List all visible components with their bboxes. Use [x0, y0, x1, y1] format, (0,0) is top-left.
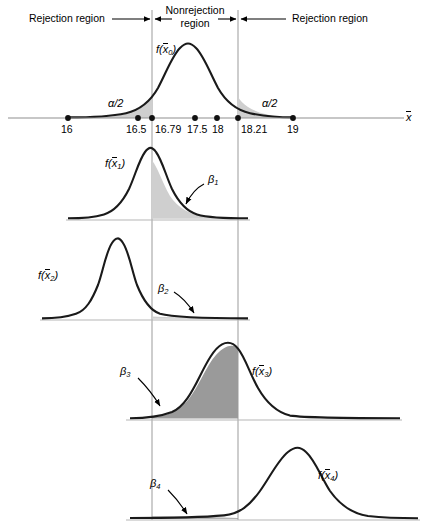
- fn2-open: f(: [38, 269, 45, 281]
- axis-tick-16-79: 16.79: [155, 124, 181, 135]
- curve-label-f-xbar3: f(x3): [252, 366, 272, 378]
- curve-null: [68, 44, 293, 118]
- rejection-region-left-label: Rejection region: [29, 13, 105, 24]
- panel-beta3: [126, 343, 402, 420]
- curve-label-f-xbar1: f(x1): [105, 158, 125, 170]
- beta3-label: β3: [120, 366, 130, 378]
- axis-tick-17-5: 17.5: [187, 124, 207, 135]
- beta2-pointer: [174, 292, 194, 313]
- curve-label-f-xbar4: f(x4): [318, 470, 338, 482]
- axis-tick-16-5: 16.5: [126, 124, 146, 135]
- xbar2-glyph: x: [45, 270, 51, 281]
- xbar-axis-glyph: x: [406, 112, 412, 123]
- curve-label-f-xbar2: f(x2): [38, 270, 58, 282]
- beta3-subscript: 3: [126, 370, 130, 379]
- panel-beta2: [40, 238, 250, 320]
- curve-label-f-xbar0: f(x0): [156, 44, 176, 56]
- axis-label-xbar: x: [406, 112, 412, 123]
- critical-guide-lines: [152, 10, 238, 520]
- axis-tick-19: 19: [287, 124, 299, 135]
- statistics-diagram: [0, 0, 424, 528]
- fn4-close: ): [334, 469, 338, 481]
- figure-canvas: Rejection region Nonrejection region Rej…: [0, 0, 424, 528]
- x-axis: [8, 115, 404, 121]
- axis-tick-18: 18: [212, 124, 224, 135]
- fn1-close: ): [121, 157, 125, 169]
- beta3-shade: [152, 346, 238, 419]
- xbar3-glyph: x: [259, 366, 265, 377]
- fn2-close: ): [54, 269, 58, 281]
- alpha-half-left-label: α/2: [108, 98, 123, 109]
- curve-beta3: [130, 343, 400, 419]
- beta1-label: β1: [208, 174, 218, 186]
- beta1-pointer: [186, 184, 204, 204]
- beta2-label: β2: [158, 283, 168, 295]
- curve-beta4: [130, 448, 418, 518]
- axis-tick-18-21: 18.21: [241, 124, 267, 135]
- beta4-label: β4: [150, 478, 160, 490]
- nonrejection-region-label-line1: Nonrejection: [159, 5, 231, 16]
- curve-beta2: [42, 238, 248, 318]
- nonrejection-region-label-line2: region: [159, 18, 231, 29]
- beta1-subscript: 1: [214, 178, 218, 187]
- beta3-pointer: [138, 378, 160, 406]
- fn1-open: f(: [105, 157, 112, 169]
- xbar4-glyph: x: [325, 470, 331, 481]
- panel-beta1: [66, 148, 250, 220]
- alpha-half-right-label: α/2: [262, 98, 277, 109]
- rejection-region-right-label: Rejection region: [292, 13, 368, 24]
- xbar1-glyph: x: [112, 158, 118, 169]
- beta4-pointer: [168, 490, 187, 514]
- fn4-open: f(: [318, 469, 325, 481]
- fn3-open: f(: [252, 365, 259, 377]
- beta1-shade: [152, 161, 248, 219]
- axis-tick-16: 16: [61, 124, 73, 135]
- panel-beta4: [126, 448, 420, 520]
- beta4-subscript: 4: [156, 482, 160, 491]
- fn-open: f(: [156, 43, 163, 55]
- fn-close: ): [172, 43, 176, 55]
- beta2-subscript: 2: [164, 287, 168, 296]
- xbar-glyph: x: [163, 44, 169, 55]
- fn3-close: ): [268, 365, 272, 377]
